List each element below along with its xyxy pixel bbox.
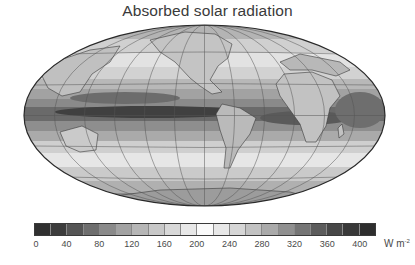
world-map bbox=[0, 0, 415, 215]
colorbar bbox=[34, 223, 376, 236]
colorbar-segment bbox=[84, 224, 100, 235]
colorbar-segment bbox=[181, 224, 197, 235]
colorbar-segment bbox=[295, 224, 311, 235]
colorbar-segment bbox=[311, 224, 327, 235]
colorbar-segment bbox=[67, 224, 83, 235]
colorbar-tick-label: 160 bbox=[157, 239, 172, 249]
colorbar-tick-label: 40 bbox=[62, 239, 72, 249]
colorbar-tick-label: 120 bbox=[124, 239, 139, 249]
colorbar-tick-label: 280 bbox=[254, 239, 269, 249]
colorbar-segment bbox=[197, 224, 213, 235]
units-text: W m bbox=[384, 238, 405, 249]
colorbar-segment bbox=[116, 224, 132, 235]
colorbar-segment bbox=[230, 224, 246, 235]
colorbar-segment bbox=[262, 224, 278, 235]
colorbar-segment bbox=[327, 224, 343, 235]
colorbar-segment bbox=[51, 224, 67, 235]
colorbar-tick-label: 80 bbox=[94, 239, 104, 249]
colorbar-segment bbox=[132, 224, 148, 235]
colorbar-tick-label: 200 bbox=[189, 239, 204, 249]
colorbar-tick-label: 360 bbox=[320, 239, 335, 249]
colorbar-segment bbox=[35, 224, 51, 235]
colorbar-tick-label: 400 bbox=[352, 239, 367, 249]
colorbar-segment bbox=[360, 224, 375, 235]
colorbar-tick-label: 240 bbox=[222, 239, 237, 249]
colorbar-tick-label: 0 bbox=[33, 239, 38, 249]
colorbar-segment bbox=[100, 224, 116, 235]
colorbar-segment bbox=[343, 224, 359, 235]
radiation-field bbox=[20, 20, 390, 215]
colorbar-segment bbox=[165, 224, 181, 235]
colorbar-units: W m-2 bbox=[384, 238, 410, 249]
colorbar-tick-label: 320 bbox=[287, 239, 302, 249]
colorbar-segment bbox=[214, 224, 230, 235]
colorbar-segment bbox=[279, 224, 295, 235]
colorbar-segment bbox=[246, 224, 262, 235]
units-exponent: -2 bbox=[405, 238, 410, 244]
colorbar-segment bbox=[149, 224, 165, 235]
